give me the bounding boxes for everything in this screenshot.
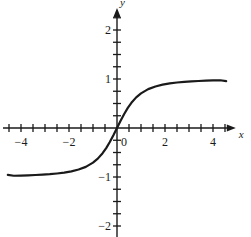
x-axis-label: x [239, 129, 244, 140]
x-tick-label: −2 [56, 136, 82, 148]
y-axis-arrow [113, 8, 120, 17]
x-tick-label: 0 [111, 136, 137, 148]
y-axis-label: y [120, 0, 125, 8]
y-tick-label: 2 [85, 24, 111, 36]
cartesian-plot [0, 0, 251, 237]
graph-figure: −4−202421−1−2xy [0, 0, 251, 237]
x-tick-label: 2 [152, 136, 178, 148]
y-tick-label: 1 [85, 73, 111, 85]
x-axis-arrow [227, 124, 236, 131]
y-tick-label: −2 [85, 220, 111, 232]
x-tick-label: −4 [8, 136, 34, 148]
x-tick-label: 4 [200, 136, 226, 148]
y-tick-label: −1 [85, 171, 111, 183]
